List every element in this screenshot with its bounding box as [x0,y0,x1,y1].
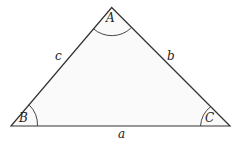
side-label-c: c [55,49,62,63]
vertex-label-B: B [18,111,28,125]
triangle-shape [11,8,230,127]
vertex-label-A: A [105,11,115,25]
side-label-b: b [167,49,175,63]
triangle-diagram: A B C a b c [0,0,243,141]
side-label-a: a [118,127,125,141]
vertex-label-C: C [205,111,214,125]
